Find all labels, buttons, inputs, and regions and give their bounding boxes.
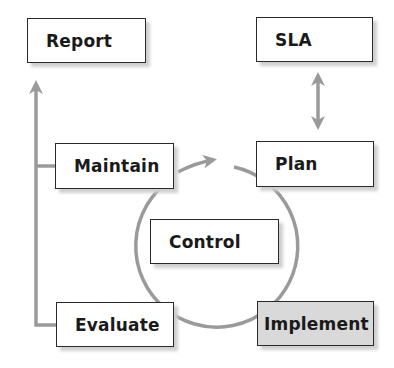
plan-box: Plan [256,141,374,187]
implement-box: Implement [257,301,374,346]
maintain-label: Maintain [74,156,159,176]
control-label: Control [169,232,241,252]
evaluate-to-report-connector [36,84,56,325]
sla-label: SLA [275,30,312,50]
sla-box: SLA [256,17,373,62]
report-label: Report [46,31,112,51]
report-box: Report [27,18,146,63]
evaluate-label: Evaluate [75,315,160,335]
maintain-box: Maintain [55,143,174,189]
plan-label: Plan [275,154,318,174]
control-box: Control [150,219,279,264]
diagram-canvas: Report SLA Maintain Plan Control Evaluat… [0,0,394,368]
evaluate-box: Evaluate [56,302,174,347]
implement-label: Implement [264,314,369,334]
